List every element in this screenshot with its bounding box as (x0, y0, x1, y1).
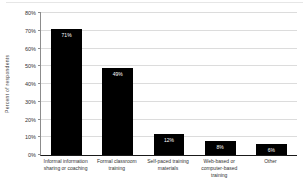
x-category-label: Web-based or computer-based training (194, 158, 245, 178)
bar-slot: 49% (92, 13, 143, 155)
y-tick-label: 40% (25, 81, 36, 87)
plot-area: 0%10%20%30%40%50%60%70%80%71%49%12%8%6% (40, 13, 297, 156)
y-tick-label: 30% (25, 99, 36, 105)
x-category-label: Informal information sharing or coaching (40, 158, 91, 178)
y-tick-label: 60% (25, 46, 36, 52)
bar-value-label: 71% (51, 32, 82, 38)
bar: 6% (256, 144, 287, 155)
bar-slot: 6% (246, 13, 297, 155)
bar-value-label: 12% (154, 137, 185, 143)
bar: 71% (51, 29, 82, 155)
bar-value-label: 6% (256, 147, 287, 153)
y-tick-label: 20% (25, 117, 36, 123)
bar-value-label: 8% (205, 144, 236, 150)
bar: 8% (205, 141, 236, 155)
y-tick-label: 70% (25, 28, 36, 34)
bar-value-label: 49% (102, 71, 133, 77)
bar: 12% (154, 134, 185, 155)
y-tick-label: 10% (25, 134, 36, 140)
y-tick-label: 50% (25, 63, 36, 69)
y-tick-label: 0% (28, 152, 36, 158)
y-tick-label: 80% (25, 10, 36, 16)
bar-slot: 71% (41, 13, 92, 155)
x-category-label: Formal classroom training (91, 158, 142, 178)
bar-chart: Percent of respondents 0%10%20%30%40%50%… (0, 0, 306, 185)
bar-slot: 8% (195, 13, 246, 155)
x-category-label: Other (245, 158, 296, 178)
frame-top-line (6, 2, 303, 3)
bar: 49% (102, 68, 133, 155)
y-axis-title: Percent of respondents (2, 13, 12, 155)
x-axis-labels: Informal information sharing or coaching… (40, 158, 296, 178)
x-category-label: Self-paced training materials (142, 158, 193, 178)
bar-slot: 12% (143, 13, 194, 155)
bars-row: 71%49%12%8%6% (41, 13, 297, 155)
